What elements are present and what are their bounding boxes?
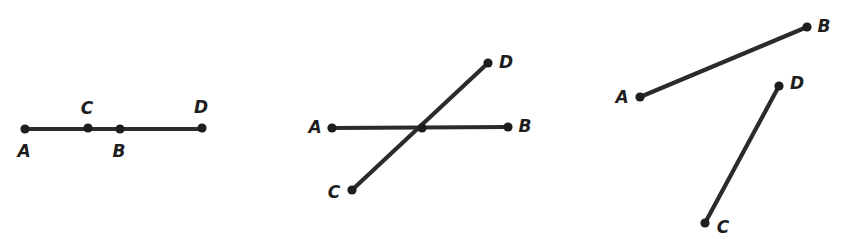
fig1-D-label: D <box>194 99 208 116</box>
fig2-crossing-dot <box>417 123 426 132</box>
fig3-B-label: B <box>818 18 831 35</box>
fig1-C-dot <box>83 123 92 132</box>
fig3-A-dot <box>635 92 644 101</box>
fig2-D-dot <box>483 58 492 67</box>
fig3-C-dot <box>700 218 709 227</box>
fig1-B-label: B <box>113 143 126 160</box>
figure-3-vertices <box>635 22 811 227</box>
fig2-C-dot <box>347 185 356 194</box>
diagram-canvas: ACBDABCDABCD <box>0 0 850 239</box>
fig3-D-dot <box>774 81 783 90</box>
fig2-A-dot <box>327 123 336 132</box>
figure-3-segment-CD <box>705 86 779 223</box>
figure-3-segments <box>640 27 807 223</box>
fig3-C-label: C <box>717 219 729 236</box>
fig3-A-label: A <box>615 89 628 106</box>
fig2-B-dot <box>503 122 512 131</box>
fig1-C-label: C <box>81 100 93 117</box>
fig2-A-label: A <box>308 119 321 136</box>
vertex-dots-layer <box>20 22 811 227</box>
fig3-B-dot <box>802 22 811 31</box>
fig1-D-dot <box>197 123 206 132</box>
fig3-D-label: D <box>790 75 804 92</box>
fig1-A-label: A <box>17 143 30 160</box>
segments-layer <box>25 27 807 223</box>
fig2-D-label: D <box>499 54 513 71</box>
fig1-A-dot <box>20 124 29 133</box>
geometry-svg <box>0 0 850 239</box>
fig2-C-label: C <box>328 184 340 201</box>
fig2-B-label: B <box>519 118 532 135</box>
fig1-B-dot <box>115 124 124 133</box>
